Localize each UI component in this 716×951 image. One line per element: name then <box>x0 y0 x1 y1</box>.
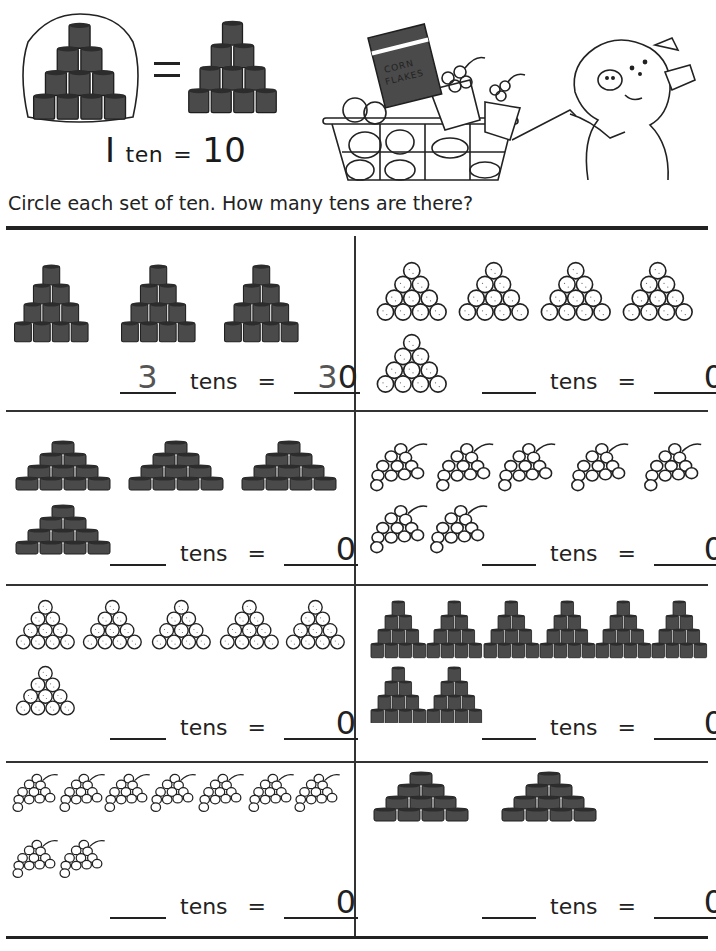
total-answer-value: 0 <box>336 883 356 921</box>
grape-bunches-icon <box>12 771 352 891</box>
answer-row: tens = 0 <box>110 706 358 740</box>
total-answer-field[interactable]: 0 <box>654 885 716 919</box>
tens-answer-field[interactable] <box>482 706 536 740</box>
total-answer-value: 0 <box>704 883 716 921</box>
header-illustration: I ten = 10 <box>0 0 716 185</box>
answer-row: tens = 0 <box>482 360 716 394</box>
answer-row: tens = 0 <box>110 885 358 919</box>
pig-shopping-cart-icon: CORN FLAKES <box>320 20 710 185</box>
circled-can-pyramid-icon <box>18 12 143 127</box>
equals-label: = <box>248 715 266 740</box>
small-can-pyramids-icon <box>368 598 713 723</box>
equation-unit: ten <box>126 142 164 167</box>
tens-label: tens <box>180 541 228 566</box>
equals-label: = <box>618 715 636 740</box>
tens-label: tens <box>190 369 238 394</box>
tens-label: tens <box>180 894 228 919</box>
top-rule <box>6 226 708 230</box>
tens-answer-field[interactable] <box>482 532 536 566</box>
problem-6: tens = 0 <box>356 586 716 761</box>
equals-label: = <box>618 894 636 919</box>
equals-label: = <box>248 541 266 566</box>
tens-label: tens <box>550 894 598 919</box>
tall-can-pyramids-icon <box>14 264 314 346</box>
equals-label: = <box>248 894 266 919</box>
total-answer-ones-digit: 0 <box>338 358 358 396</box>
equation-equals: = <box>173 142 192 167</box>
total-answer-field[interactable]: 30 <box>294 360 360 394</box>
total-answer-field[interactable]: 0 <box>284 885 358 919</box>
total-answer-field[interactable]: 0 <box>654 360 716 394</box>
problem-8: tens = 0 <box>356 763 716 936</box>
can-pyramid-icon <box>188 14 288 124</box>
ten-equation: I ten = 10 <box>105 130 246 170</box>
total-answer-value: 0 <box>336 704 356 742</box>
total-answer-field[interactable]: 0 <box>654 706 716 740</box>
ball-triangles-icon <box>14 598 354 718</box>
total-answer-value: 0 <box>704 358 716 396</box>
tens-answer-field[interactable] <box>110 885 166 919</box>
tens-label: tens <box>550 541 598 566</box>
total-answer-value: 0 <box>704 704 716 742</box>
problem-5: tens = 0 <box>0 586 354 761</box>
instruction-text: Circle each set of ten. How many tens ar… <box>8 192 473 214</box>
total-answer-field[interactable]: 0 <box>654 532 716 566</box>
total-answer-value: 0 <box>704 530 716 568</box>
answer-row: tens = 0 <box>482 706 716 740</box>
problem-4: tens = 0 <box>356 412 716 584</box>
answer-row: tens = 0 <box>110 532 358 566</box>
equals-label: = <box>258 369 276 394</box>
tens-label: tens <box>180 715 228 740</box>
total-answer-field[interactable]: 0 <box>284 706 358 740</box>
problem-3: tens = 0 <box>0 412 354 584</box>
bottom-rule <box>6 936 708 939</box>
total-answer-field[interactable]: 0 <box>284 532 358 566</box>
tens-answer-field[interactable] <box>110 706 166 740</box>
problem-1: 3 tens = 30 <box>0 236 354 410</box>
problem-2: tens = 0 <box>356 236 716 410</box>
total-answer-value: 30 <box>317 358 358 396</box>
tens-label: tens <box>550 715 598 740</box>
answer-row: tens = 0 <box>482 532 716 566</box>
total-answer-value: 0 <box>336 530 356 568</box>
tens-answer-field[interactable] <box>110 532 166 566</box>
equals-label: = <box>618 369 636 394</box>
tens-answer-value: 3 <box>137 358 158 396</box>
tens-answer-field[interactable]: 3 <box>120 360 176 394</box>
equation-one: I <box>105 130 116 170</box>
equals-label: = <box>618 541 636 566</box>
problem-7: tens = 0 <box>0 763 354 936</box>
equation-value: 10 <box>202 130 246 170</box>
answer-row: 3 tens = 30 <box>120 360 360 394</box>
total-answer-tens-digit: 3 <box>317 358 337 396</box>
tens-label: tens <box>550 369 598 394</box>
answer-row: tens = 0 <box>482 885 716 919</box>
flat-can-pyramids-icon <box>370 769 670 829</box>
tens-answer-field[interactable] <box>482 360 536 394</box>
equals-sign <box>154 62 180 80</box>
tens-answer-field[interactable] <box>482 885 536 919</box>
